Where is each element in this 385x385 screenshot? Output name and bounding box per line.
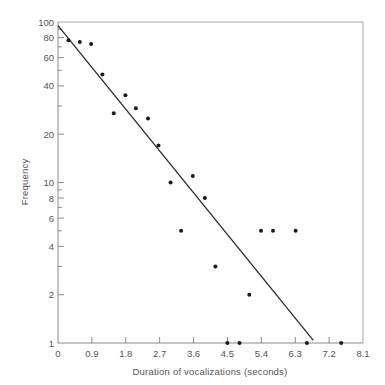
data-point xyxy=(169,181,173,185)
y-tick-label: 20 xyxy=(43,129,54,140)
y-tick-label: 2 xyxy=(49,289,54,300)
x-tick-label: 6.3 xyxy=(289,348,302,359)
y-axis-title: Frequency xyxy=(19,159,30,206)
data-point xyxy=(157,144,161,148)
x-tick-label: 7.2 xyxy=(323,348,336,359)
data-point xyxy=(134,106,138,110)
x-axis-ticks: 00.91.82.73.64.55.46.37.28.1 xyxy=(55,337,369,359)
y-tick-label: 8 xyxy=(49,193,54,204)
x-tick-label: 2.7 xyxy=(153,348,166,359)
plot-frame xyxy=(58,22,363,343)
y-tick-label: 6 xyxy=(49,213,54,224)
fit-line xyxy=(58,26,313,341)
data-point xyxy=(225,341,229,345)
y-tick-label: 1 xyxy=(49,338,54,349)
data-point xyxy=(271,229,275,233)
y-tick-label: 60 xyxy=(43,52,54,63)
data-points xyxy=(67,38,344,345)
x-tick-label: 0.9 xyxy=(85,348,98,359)
x-tick-label: 8.1 xyxy=(356,348,369,359)
data-point xyxy=(259,229,263,233)
fit-line-group xyxy=(58,26,313,341)
y-tick-label: 4 xyxy=(49,241,54,252)
y-axis-ticks: 124681020406080100 xyxy=(38,17,64,349)
data-point xyxy=(112,111,116,115)
x-axis-title: Duration of vocalizations (seconds) xyxy=(133,366,288,377)
data-point xyxy=(213,264,217,268)
data-point xyxy=(294,229,298,233)
x-tick-label: 3.6 xyxy=(187,348,200,359)
data-point xyxy=(305,341,309,345)
data-point xyxy=(67,38,71,42)
data-point xyxy=(78,40,82,44)
y-tick-label: 100 xyxy=(38,17,54,28)
y-tick-label: 10 xyxy=(43,177,54,188)
chart: 00.91.82.73.64.55.46.37.28.1 12468102040… xyxy=(0,0,385,385)
y-tick-label: 80 xyxy=(43,32,54,43)
data-point xyxy=(203,196,207,200)
data-point xyxy=(179,229,183,233)
x-tick-label: 4.5 xyxy=(221,348,234,359)
x-tick-label: 1.8 xyxy=(119,348,132,359)
data-point xyxy=(247,293,251,297)
x-tick-label: 5.4 xyxy=(255,348,268,359)
data-point xyxy=(146,117,150,121)
data-point xyxy=(89,42,93,46)
data-point xyxy=(238,341,242,345)
data-point xyxy=(123,93,127,97)
x-tick-label: 0 xyxy=(55,348,60,359)
y-tick-label: 40 xyxy=(43,80,54,91)
data-point xyxy=(100,73,104,77)
data-point xyxy=(191,174,195,178)
data-point xyxy=(339,341,343,345)
